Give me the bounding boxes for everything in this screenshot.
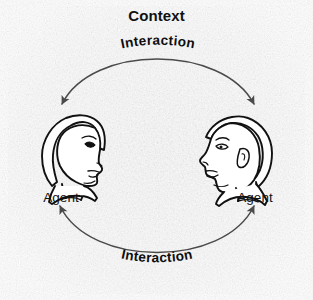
agent-right-head-icon	[200, 116, 272, 206]
diagram-artwork	[0, 0, 313, 300]
arc-bottom-interaction	[60, 206, 254, 253]
arc-top-interaction	[62, 59, 254, 104]
diagram-figure: Interaction Interaction Context Agent Ag…	[0, 0, 313, 300]
agent-left-head-icon	[42, 115, 105, 204]
